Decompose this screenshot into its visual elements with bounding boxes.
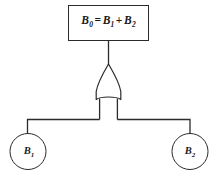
formula-rhs-second: B — [124, 14, 132, 26]
diagram-canvas: B0=B1+B2 B1 B2 — [0, 0, 217, 178]
or-gate-body — [96, 64, 121, 100]
node-b2-label: B2 — [172, 146, 208, 159]
node-b1-label: B1 — [11, 146, 47, 159]
formula-lhs: B — [81, 14, 89, 26]
connector-gate-to-b2 — [117, 120, 190, 134]
formula-plus: + — [114, 14, 124, 26]
node-b2-subscript: 2 — [192, 151, 196, 159]
node-b1-subscript: 1 — [31, 151, 35, 159]
formula-equals: = — [93, 14, 103, 26]
formula-rhs-first: B — [103, 14, 111, 26]
node-b2-letter: B — [185, 145, 192, 156]
node-b1-letter: B — [24, 145, 31, 156]
formula-expression: B0=B1+B2 — [0, 15, 217, 28]
connector-gate-to-b1 — [28, 120, 100, 134]
formula-rhs-second-subscript: 2 — [132, 20, 136, 29]
